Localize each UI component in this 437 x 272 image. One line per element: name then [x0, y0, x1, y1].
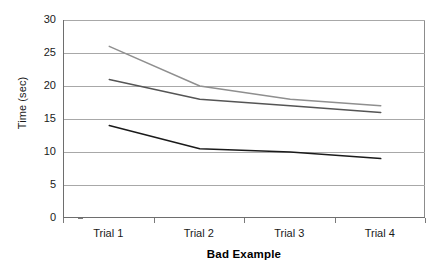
line-chart: Time (sec) 051015202530 Trial 1Trial 2Tr… [0, 0, 437, 272]
series-line [109, 79, 381, 112]
x-tick-label: Trial 4 [335, 227, 426, 240]
series-line [109, 126, 381, 159]
x-axis-tick-marks [63, 218, 425, 224]
y-tick-label: 5 [20, 179, 56, 190]
series-lines [64, 20, 426, 218]
x-tick-mark [63, 218, 64, 223]
series-line [109, 46, 381, 105]
y-tick-label: 10 [20, 146, 56, 157]
y-axis-tick-labels: 051015202530 [20, 0, 56, 272]
x-tick-label: Trial 3 [244, 227, 335, 240]
y-tick-label: 30 [20, 14, 56, 25]
x-tick-mark [244, 218, 245, 223]
x-tick-mark [154, 218, 155, 223]
y-tick-label: 25 [20, 47, 56, 58]
x-tick-mark [335, 218, 336, 223]
y-tick-label: 0 [20, 212, 56, 223]
x-axis-tick-labels: Trial 1Trial 2Trial 3Trial 4 [63, 227, 425, 243]
x-axis-title: Bad Example [63, 248, 425, 260]
x-tick-mark [425, 218, 426, 223]
y-tick-label: 20 [20, 80, 56, 91]
y-tick-label: 15 [20, 113, 56, 124]
x-tick-label: Trial 2 [154, 227, 245, 240]
plot-area [63, 20, 425, 218]
x-tick-label: Trial 1 [63, 227, 154, 240]
